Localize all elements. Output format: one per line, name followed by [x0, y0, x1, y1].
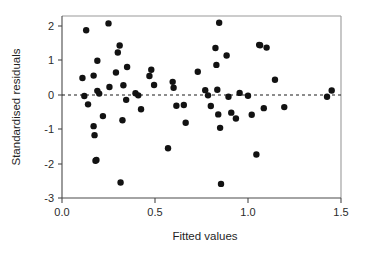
data-point [90, 72, 96, 78]
data-point [120, 82, 126, 88]
data-point [181, 102, 187, 108]
data-point [228, 109, 234, 115]
data-point [85, 101, 91, 107]
scatter-plot-canvas: 2 1 0 -1 -2 -3 0.0 0.5 1.0 1.5 Fitted va… [0, 0, 365, 257]
data-point [208, 103, 214, 109]
data-point [217, 125, 223, 131]
data-point [249, 112, 255, 118]
y-tick-label-1: 1 [48, 54, 54, 66]
data-point [117, 179, 123, 185]
data-point [93, 157, 99, 163]
data-point [113, 69, 119, 75]
data-point [79, 75, 85, 81]
data-point [148, 67, 154, 73]
data-point [124, 64, 130, 70]
data-point [263, 44, 269, 50]
data-point [123, 97, 129, 103]
data-point [215, 111, 221, 117]
data-point [135, 92, 141, 98]
x-tick-label-15: 1.5 [333, 206, 348, 218]
data-points-layer [79, 19, 335, 187]
data-point [100, 113, 106, 119]
data-point [83, 27, 89, 33]
data-point [96, 90, 102, 96]
data-point [116, 42, 122, 48]
data-point [182, 119, 188, 125]
data-point [216, 19, 222, 25]
y-tick-label-minus2: -2 [44, 158, 54, 170]
x-tick-labels: 0.0 0.5 1.0 1.5 [54, 206, 348, 218]
data-point [195, 69, 201, 75]
data-point [272, 77, 278, 83]
y-tick-label-0: 0 [48, 89, 54, 101]
data-point [218, 181, 224, 187]
data-point [119, 117, 125, 123]
data-point [225, 94, 231, 100]
x-tick-label-10: 1.0 [240, 206, 255, 218]
x-tick-label-0: 0.0 [54, 206, 69, 218]
y-axis-title: Standardised residuals [10, 48, 22, 165]
data-point [233, 115, 239, 121]
data-point [165, 145, 171, 151]
data-point [236, 90, 242, 96]
y-axis-ticks [58, 26, 62, 198]
y-tick-label-minus1: -1 [44, 123, 54, 135]
x-axis-title: Fitted values [172, 230, 237, 242]
data-point [105, 20, 111, 26]
data-point [81, 93, 87, 99]
data-point [245, 92, 251, 98]
data-point [115, 49, 121, 55]
data-point [223, 52, 229, 58]
data-point [170, 85, 176, 91]
data-point [138, 106, 144, 112]
data-point [205, 92, 211, 98]
data-point [91, 132, 97, 138]
x-tick-label-05: 0.5 [147, 206, 162, 218]
data-point [212, 45, 218, 51]
y-tick-label-2: 2 [48, 20, 54, 32]
y-tick-labels: 2 1 0 -1 -2 -3 [44, 20, 54, 204]
data-point [213, 62, 219, 68]
data-point [90, 123, 96, 129]
x-axis-ticks [62, 198, 341, 203]
data-point [214, 87, 220, 93]
y-tick-label-minus3: -3 [44, 192, 54, 204]
plot-frame [62, 16, 341, 198]
data-point [257, 42, 263, 48]
data-point [281, 104, 287, 110]
data-point [151, 82, 157, 88]
data-point [329, 87, 335, 93]
data-point [146, 73, 152, 79]
data-point [106, 84, 112, 90]
data-point [94, 58, 100, 64]
data-point [169, 79, 175, 85]
data-point [324, 94, 330, 100]
residual-scatter-figure: 2 1 0 -1 -2 -3 0.0 0.5 1.0 1.5 Fitted va… [0, 0, 365, 257]
data-point [261, 105, 267, 111]
data-point [173, 103, 179, 109]
data-point [253, 151, 259, 157]
